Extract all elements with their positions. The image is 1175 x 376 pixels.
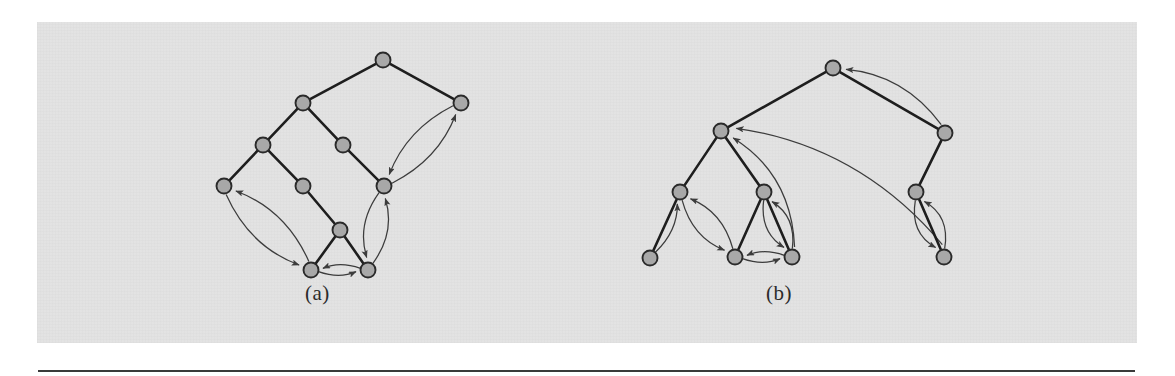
graph-node-b6 xyxy=(909,185,924,200)
graph-figure-svg xyxy=(0,0,1175,376)
back-edges-layer xyxy=(226,69,946,275)
back-edge-b8-b4 xyxy=(691,199,733,249)
tree-edge-a5-a8 xyxy=(348,150,380,182)
figure-page: (a) (b) xyxy=(0,0,1175,376)
graph-node-a11 xyxy=(361,263,376,278)
tree-edge-b6-b10 xyxy=(919,198,942,251)
tree-edge-b2-b4 xyxy=(684,136,718,186)
back-edge-b3-b1 xyxy=(846,69,941,124)
tree-edge-a9-a11 xyxy=(344,235,365,264)
tree-edge-a1-a3 xyxy=(389,63,456,100)
graph-node-a6 xyxy=(217,179,232,194)
graph-node-b10 xyxy=(937,250,952,265)
graph-node-b5 xyxy=(757,185,772,200)
graph-node-b8 xyxy=(728,250,743,265)
back-edge-a11-a8 xyxy=(373,198,389,263)
tree-edge-a9-a10 xyxy=(315,235,336,264)
graph-node-b9 xyxy=(785,250,800,265)
graph-node-b3 xyxy=(938,126,953,141)
graph-node-a5 xyxy=(336,138,351,153)
tree-edge-a7-a9 xyxy=(307,191,336,225)
graph-node-a1 xyxy=(376,53,391,68)
back-edge-a8-a11 xyxy=(363,193,379,258)
graph-nodes-layer xyxy=(217,53,953,278)
bottom-horizontal-rule xyxy=(38,370,1135,372)
tree-edge-a2-a4 xyxy=(267,108,298,141)
tree-edge-b5-b8 xyxy=(738,198,762,251)
back-edge-a10-a11 xyxy=(319,272,357,276)
graph-node-a3 xyxy=(454,96,469,111)
graph-node-a10 xyxy=(304,263,319,278)
tree-edge-b3-b6 xyxy=(919,139,942,186)
tree-edge-b1-b2 xyxy=(727,71,828,128)
back-edge-b9-b5 xyxy=(772,202,793,249)
tree-edge-a4-a7 xyxy=(268,150,299,182)
tree-edge-a1-a2 xyxy=(309,63,378,100)
graph-node-a4 xyxy=(256,138,271,153)
graph-node-b7 xyxy=(643,251,658,266)
back-edge-b4-b8 xyxy=(682,200,724,250)
back-edge-b7-b4 xyxy=(655,204,677,252)
caption-a: (a) xyxy=(305,281,330,306)
back-edge-b5-b9 xyxy=(763,200,784,247)
graph-node-a9 xyxy=(333,223,348,238)
graph-node-a8 xyxy=(377,179,392,194)
caption-b: (b) xyxy=(766,281,792,306)
graph-node-a7 xyxy=(296,179,311,194)
back-edge-a11-a10 xyxy=(323,265,361,269)
graph-node-b4 xyxy=(673,185,688,200)
graph-node-b1 xyxy=(826,61,841,76)
graph-node-b2 xyxy=(714,124,729,139)
graph-node-a2 xyxy=(296,96,311,111)
back-edge-b9-b8 xyxy=(747,252,785,256)
tree-edge-a4-a6 xyxy=(228,150,258,182)
tree-edge-a2-a5 xyxy=(307,108,338,141)
back-edge-b8-b9 xyxy=(743,259,781,263)
